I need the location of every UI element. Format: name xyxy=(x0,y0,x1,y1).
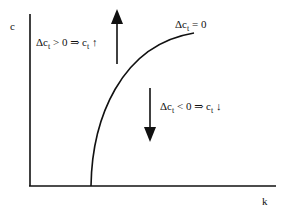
decrease-arrow-icon: ↓ xyxy=(213,100,221,112)
up-arrow-icon xyxy=(111,9,123,64)
increase-arrow-icon: ↑ xyxy=(89,36,97,48)
diagram-graphics xyxy=(0,0,289,215)
x-axis-label: k xyxy=(262,195,268,207)
annotation-prefix: Δc xyxy=(36,36,48,48)
region-above-annotation: Δct > 0 ⇒ ct ↑ xyxy=(36,36,98,53)
phase-diagram: c k Δct = 0 Δct > 0 ⇒ ct ↑ Δct < 0 ⇒ ct … xyxy=(0,0,289,215)
annotation-prefix: Δc xyxy=(160,100,172,112)
x-axis-label-text: k xyxy=(262,195,268,207)
y-axis-label: c xyxy=(10,20,15,32)
annotation-mid: > 0 ⇒ c xyxy=(50,36,87,48)
annotation-mid: < 0 ⇒ c xyxy=(174,100,211,112)
curve-label: Δct = 0 xyxy=(175,18,206,35)
curve-label-prefix: Δc xyxy=(175,18,187,30)
curve-label-suffix: = 0 xyxy=(189,18,206,30)
down-arrow-icon xyxy=(144,88,156,142)
region-below-annotation: Δct < 0 ⇒ ct ↓ xyxy=(160,100,222,117)
y-axis-label-text: c xyxy=(10,20,15,32)
